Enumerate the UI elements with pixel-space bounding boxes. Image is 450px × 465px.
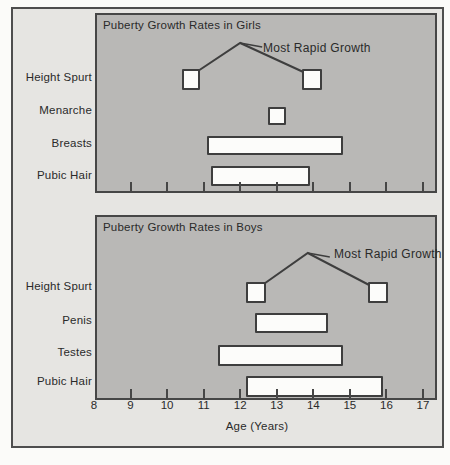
boys-panel: Puberty Growth Rates in Boys bbox=[95, 215, 437, 400]
boys-axis-tick bbox=[422, 389, 424, 398]
girls-axis-tick bbox=[166, 182, 168, 191]
figure: Puberty Growth Rates in Girls Puberty Gr… bbox=[0, 0, 450, 465]
girls-height-spurt-bar bbox=[182, 69, 200, 90]
girls-menarche-bar bbox=[268, 107, 286, 125]
girls-row-label-breasts: Breasts bbox=[8, 135, 92, 151]
axis-tick-label-13: 13 bbox=[265, 399, 289, 411]
girls-breasts-bar bbox=[207, 136, 342, 155]
girls-pubic-hair-bar bbox=[211, 166, 310, 186]
axis-tick-label-15: 15 bbox=[338, 399, 362, 411]
axis-tick-label-14: 14 bbox=[301, 399, 325, 411]
axis-tick-label-9: 9 bbox=[119, 399, 143, 411]
boys-height-spurt-bar bbox=[246, 282, 266, 303]
girls-height-spurt-bar bbox=[302, 69, 322, 90]
boys-axis-tick bbox=[130, 389, 132, 398]
axis-tick-label-16: 16 bbox=[374, 399, 398, 411]
girls-axis-tick bbox=[422, 182, 424, 191]
boys-panel-title: Puberty Growth Rates in Boys bbox=[103, 221, 263, 233]
boys-axis-tick bbox=[203, 389, 205, 398]
girls-axis-tick bbox=[349, 182, 351, 191]
x-axis-title: Age (Years) bbox=[157, 420, 357, 432]
girls-axis-tick bbox=[312, 182, 314, 191]
axis-tick-label-12: 12 bbox=[228, 399, 252, 411]
boys-testes-bar bbox=[218, 345, 342, 366]
boys-row-label-testes: Testes bbox=[8, 344, 92, 360]
girls-axis-tick bbox=[239, 182, 241, 191]
boys-axis-tick bbox=[349, 389, 351, 398]
boys-row-label-penis: Penis bbox=[8, 312, 92, 328]
girls-row-label-pubic-hair: Pubic Hair bbox=[8, 167, 92, 183]
boys-axis-tick bbox=[312, 389, 314, 398]
axis-tick-label-8: 8 bbox=[82, 399, 106, 411]
boys-axis-tick bbox=[276, 389, 278, 398]
boys-penis-bar bbox=[255, 313, 328, 333]
axis-tick-label-11: 11 bbox=[192, 399, 216, 411]
boys-axis-tick bbox=[385, 389, 387, 398]
boys-row-label-pubic-hair: Pubic Hair bbox=[8, 373, 92, 389]
girls-panel-title: Puberty Growth Rates in Girls bbox=[103, 19, 261, 31]
girls-annotation-label: Most Rapid Growth bbox=[263, 41, 371, 55]
boys-annotation-label: Most Rapid Growth bbox=[334, 247, 442, 261]
boys-axis-tick bbox=[166, 389, 168, 398]
axis-tick-label-10: 10 bbox=[155, 399, 179, 411]
girls-row-label-height-spurt: Height Spurt bbox=[8, 69, 92, 85]
girls-axis-tick bbox=[385, 182, 387, 191]
axis-tick-label-17: 17 bbox=[411, 399, 435, 411]
girls-axis-tick bbox=[203, 182, 205, 191]
boys-row-label-height-spurt: Height Spurt bbox=[8, 278, 92, 294]
boys-height-spurt-bar bbox=[368, 282, 388, 303]
girls-axis-tick bbox=[276, 182, 278, 191]
girls-axis-tick bbox=[130, 182, 132, 191]
boys-axis-tick bbox=[239, 389, 241, 398]
girls-row-label-menarche: Menarche bbox=[8, 102, 92, 118]
